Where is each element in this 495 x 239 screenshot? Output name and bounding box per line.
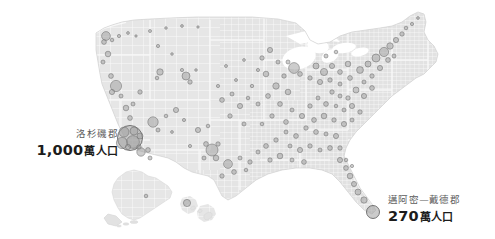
hawaii-inset	[175, 190, 223, 230]
annotation-population-unit: 萬人口	[84, 145, 118, 158]
annotation-population-value: 270	[388, 208, 419, 224]
annotation-los-angeles: 洛杉磯郡 1,000萬人口	[6, 129, 118, 159]
annotation-miami-dade: 邁阿密—戴德郡 270萬人口	[388, 195, 489, 225]
alaska-inset	[100, 165, 180, 230]
annotation-county-name: 邁阿密—戴德郡	[388, 195, 489, 206]
annotation-population: 1,000萬人口	[6, 141, 118, 159]
annotation-population-value: 1,000	[37, 142, 84, 158]
population-bubble-map-figure: 洛杉磯郡 1,000萬人口 邁阿密—戴德郡 270萬人口	[0, 0, 495, 239]
annotation-county-name: 洛杉磯郡	[6, 129, 118, 140]
annotation-population-unit: 萬人口	[420, 211, 454, 224]
annotation-population: 270萬人口	[388, 207, 489, 225]
